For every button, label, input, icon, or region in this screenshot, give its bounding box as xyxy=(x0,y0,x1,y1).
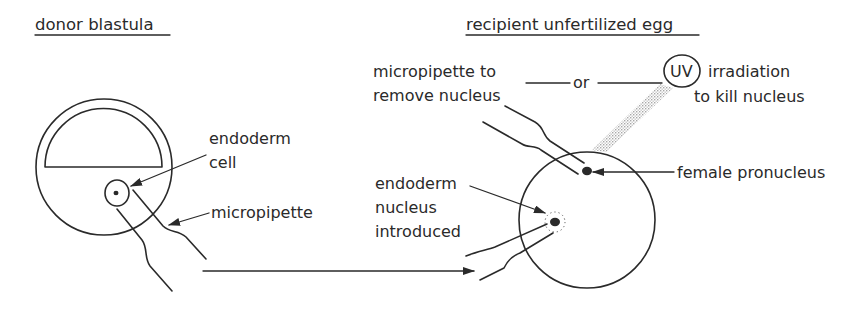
introduced-label-line2: nucleus xyxy=(375,198,437,217)
endoderm-cell-label-line2: cell xyxy=(209,153,237,172)
removal-micropipette-lower-edge xyxy=(483,122,578,174)
donor-blastula-group: donor blastula endoderm cell micropipett… xyxy=(35,15,313,291)
injecting-micropipette-upper-edge xyxy=(466,224,547,256)
uv-beam xyxy=(592,84,673,152)
uv-label: UV xyxy=(670,62,693,81)
endoderm-cell-arrow xyxy=(131,155,206,186)
micropipette-arrow xyxy=(169,213,209,225)
female-pronucleus xyxy=(582,167,592,175)
introduced-label-line1: endoderm xyxy=(375,174,457,193)
removal-label-line1: micropipette to xyxy=(373,62,496,81)
female-pronucleus-label: female pronucleus xyxy=(677,163,825,182)
recipient-egg-title: recipient unfertilized egg xyxy=(466,15,673,34)
nuclear-transplantation-diagram: donor blastula endoderm cell micropipett… xyxy=(0,0,867,309)
removal-label-line2: remove nucleus xyxy=(373,86,501,105)
removal-micropipette-upper-edge xyxy=(505,106,584,163)
donor-blastula-title: donor blastula xyxy=(35,15,154,34)
uv-label-line1: irradiation xyxy=(708,62,790,81)
micropipette-label: micropipette xyxy=(211,203,313,222)
blastocoel-cavity xyxy=(45,109,162,167)
endoderm-cell-label-line1: endoderm xyxy=(209,129,291,148)
introduced-endoderm-nucleus xyxy=(550,218,560,226)
introduced-nucleus-arrow xyxy=(470,186,545,213)
injecting-micropipette-lower-edge xyxy=(480,233,553,280)
introduced-label-line3: introduced xyxy=(375,222,461,241)
recipient-egg-group: recipient unfertilized egg micropipette … xyxy=(373,15,825,288)
or-label: or xyxy=(573,73,590,92)
uv-label-line2: to kill nucleus xyxy=(694,87,805,106)
endoderm-cell-nucleus xyxy=(114,191,119,195)
